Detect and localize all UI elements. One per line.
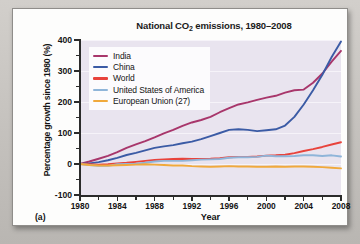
- y-tick-minor: [76, 117, 80, 118]
- x-tick-label: 2008: [321, 201, 360, 211]
- x-tick-label: 1992: [172, 201, 212, 211]
- y-tick-label: 100: [18, 128, 72, 138]
- legend-item[interactable]: World: [93, 73, 204, 84]
- x-tick-minor: [135, 196, 136, 200]
- x-tick-minor: [210, 196, 211, 200]
- legend-swatch-icon: [93, 77, 108, 79]
- y-tick-minor: [76, 148, 80, 149]
- chart-title-suffix: emissions, 1980–2008: [193, 20, 292, 31]
- y-tick-minor: [76, 179, 80, 180]
- x-tick-minor: [98, 196, 99, 200]
- y-tick: [74, 132, 80, 133]
- legend-label: China: [113, 62, 135, 72]
- x-tick-minor: [247, 196, 248, 200]
- legend-label: World: [113, 73, 135, 83]
- chart-title: National CO2 emissions, 1980–2008: [69, 20, 359, 31]
- y-tick-minor: [76, 55, 80, 56]
- y-tick-label: 200: [18, 97, 72, 107]
- legend-swatch-icon: [93, 100, 108, 102]
- x-tick-minor: [322, 196, 323, 200]
- y-tick-label: 400: [18, 35, 72, 45]
- y-tick: [74, 70, 80, 71]
- x-tick-label: 1988: [135, 201, 175, 211]
- y-tick-label: -100: [18, 190, 72, 200]
- y-tick-label: 0: [18, 159, 72, 169]
- legend-label: European Union (27): [113, 96, 190, 106]
- legend-swatch-icon: [93, 89, 108, 91]
- series-line: [80, 164, 341, 168]
- x-tick-label: 1996: [209, 201, 249, 211]
- x-tick-label: 2000: [246, 201, 286, 211]
- legend-label: India: [113, 51, 131, 61]
- y-tick-labels: -1000100200300400: [13, 9, 72, 227]
- y-tick: [74, 101, 80, 102]
- legend-item[interactable]: United States of America: [93, 84, 204, 95]
- y-tick: [74, 163, 80, 164]
- x-tick-minor: [284, 196, 285, 200]
- y-tick-label: 300: [18, 66, 72, 76]
- legend-item[interactable]: European Union (27): [93, 96, 204, 107]
- figure-root: National CO2 emissions, 1980–2008 Percen…: [0, 0, 360, 244]
- panel-label: (a): [35, 212, 46, 222]
- y-tick: [74, 39, 80, 40]
- x-tick-label: 1980: [60, 201, 100, 211]
- x-tick-label: 1984: [97, 201, 137, 211]
- legend-item[interactable]: China: [93, 61, 204, 72]
- chart-title-prefix: National CO: [136, 20, 189, 31]
- series-line: [80, 142, 341, 164]
- legend-swatch-icon: [93, 66, 108, 68]
- x-tick-label: 2004: [284, 201, 324, 211]
- x-tick-minor: [173, 196, 174, 200]
- y-tick-minor: [76, 86, 80, 87]
- legend-item[interactable]: India: [93, 50, 204, 61]
- x-axis-label: Year: [80, 212, 341, 222]
- figure-card: National CO2 emissions, 1980–2008 Percen…: [12, 8, 348, 226]
- legend-swatch-icon: [93, 55, 108, 57]
- legend-label: United States of America: [113, 85, 204, 95]
- chart-title-subscript: 2: [189, 25, 193, 32]
- chart-legend: IndiaChinaWorldUnited States of AmericaE…: [89, 47, 210, 110]
